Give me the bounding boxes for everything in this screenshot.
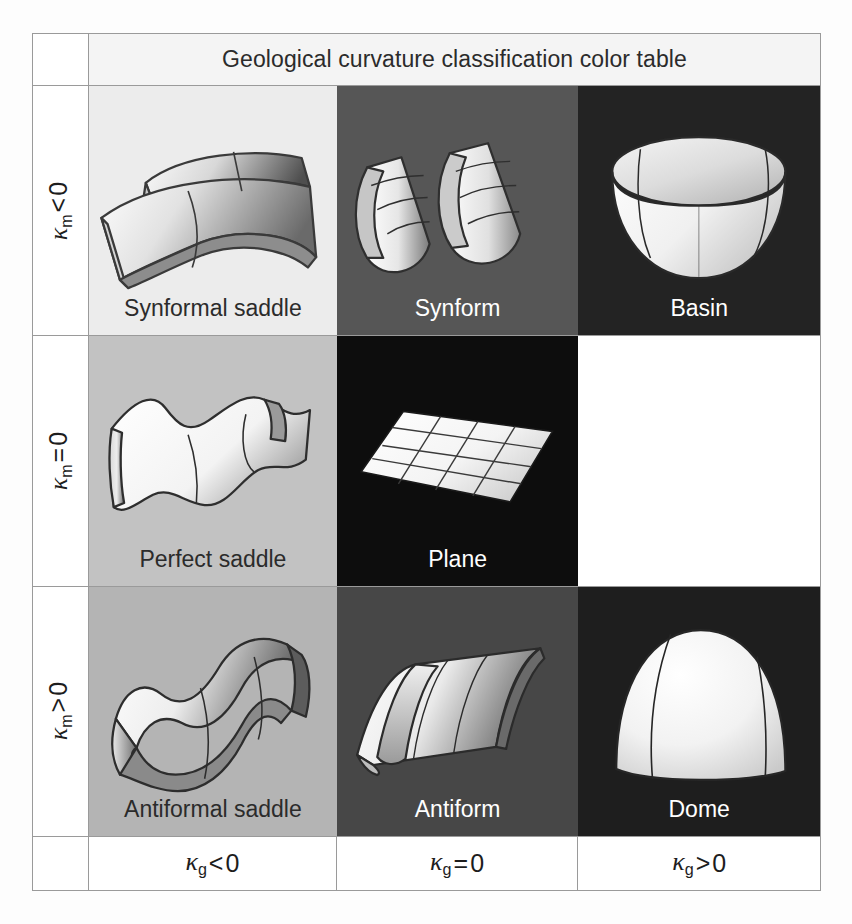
header-corner-cell (33, 34, 89, 85)
cell-label: Basin (670, 295, 728, 335)
cell-label: Perfect saddle (139, 546, 286, 586)
row-label-text: κm=0 (44, 432, 76, 490)
table-header-row: Geological curvature classification colo… (33, 34, 820, 86)
table-footer-row: κg<0 κg=0 κg>0 (33, 836, 820, 890)
cell-label: Antiformal saddle (124, 796, 302, 836)
row-label-km-lt-0: κm<0 (33, 86, 89, 335)
table-title: Geological curvature classification colo… (89, 34, 820, 85)
row-label-text: κm>0 (44, 682, 76, 740)
figure-root: Geological curvature classification colo… (0, 0, 852, 924)
table-row-km-gt-0: κm>0 (33, 587, 820, 836)
table-body: κm<0 (33, 86, 820, 836)
cell-label: Synform (415, 295, 501, 335)
table-row-km-eq-0: κm=0 (33, 336, 820, 586)
table-row-km-lt-0: κm<0 (33, 86, 820, 336)
row-label-km-gt-0: κm>0 (33, 587, 89, 836)
column-label-kg-lt-0: κg<0 (89, 837, 337, 890)
cell-label: Plane (428, 546, 487, 586)
cell-label: Dome (669, 796, 730, 836)
cell-label: Synformal saddle (124, 295, 302, 335)
cell-label: Antiform (415, 796, 501, 836)
cell-antiformal-saddle[interactable]: Antiformal saddle (89, 587, 337, 836)
cell-synformal-saddle[interactable]: Synformal saddle (89, 86, 337, 335)
footer-corner-cell (33, 837, 89, 890)
row-label-km-eq-0: κm=0 (33, 336, 89, 585)
cell-dome[interactable]: Dome (578, 587, 820, 836)
cell-plane[interactable]: Plane (337, 336, 579, 585)
column-label-kg-gt-0: κg>0 (578, 837, 820, 890)
cell-basin[interactable]: Basin (578, 86, 820, 335)
row-label-text: κm<0 (44, 181, 76, 239)
cell-empty-km0-kg-gt-0[interactable] (578, 336, 820, 585)
cell-synform[interactable]: Synform (337, 86, 579, 335)
cell-antiform[interactable]: Antiform (337, 587, 579, 836)
cell-perfect-saddle[interactable]: Perfect saddle (89, 336, 337, 585)
column-label-kg-eq-0: κg=0 (337, 837, 579, 890)
curvature-classification-table: Geological curvature classification colo… (32, 33, 821, 891)
